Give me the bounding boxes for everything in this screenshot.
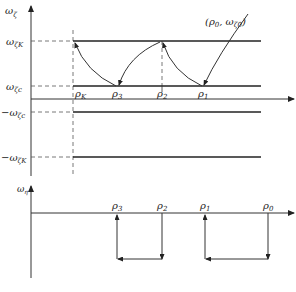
neg-omega-zeta-K-label: −ωζK: [1, 152, 27, 165]
bottom-rho-1-label: ρ1: [199, 200, 210, 213]
trajectory-rho2-to-rho3: [119, 42, 160, 85]
top-y-axis-label: ωζ: [5, 5, 18, 19]
top-plot: ωζ ωζK ωζc −ωζc −ωζK ρK ρ3 ρ2 ρ1 (ρ0, ωζ…: [1, 5, 294, 176]
omega-zeta-c-label: ωζc: [6, 81, 22, 94]
neg-omega-zeta-c-label: −ωζc: [1, 107, 25, 120]
bottom-rho-0-label: ρ0: [262, 200, 274, 213]
omega-zeta-K-label: ωζK: [6, 36, 24, 49]
bottom-rho-2-label: ρ2: [156, 200, 168, 213]
start-point-label: (ρ0, ωζ0): [205, 16, 246, 29]
trajectory-rho1-to-rho2: [163, 43, 202, 86]
bottom-rho-3-label: ρ3: [111, 200, 123, 213]
bottom-y-axis-label: ωη: [17, 184, 28, 196]
bottom-plot: ωη ρ3 ρ2 ρ1 ρ0: [17, 184, 294, 278]
phase-diagram: ωζ ωζK ωζc −ωζc −ωζK ρK ρ3 ρ2 ρ1 (ρ0, ωζ…: [0, 0, 296, 292]
trajectory-rho3-to-rhoK: [75, 43, 116, 86]
